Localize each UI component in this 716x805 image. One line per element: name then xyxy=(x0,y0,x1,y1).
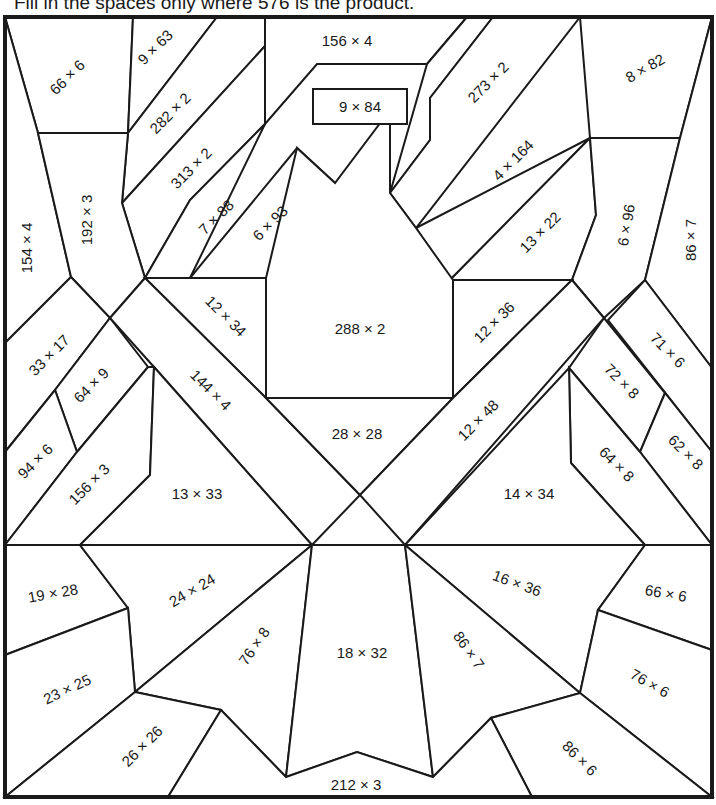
region-9x84-box[interactable] xyxy=(313,89,407,124)
puzzle-canvas: 66 × 6 9 × 63 282 × 2 156 × 4 9 × 84 273… xyxy=(0,0,716,805)
puzzle-pieces xyxy=(5,17,712,797)
